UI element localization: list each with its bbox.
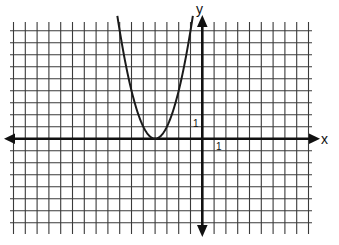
x-unit-label: 1 bbox=[216, 141, 222, 152]
grid-lines bbox=[10, 22, 312, 234]
x-axis-right-arrow-icon bbox=[309, 134, 320, 144]
y-unit-label: 1 bbox=[193, 118, 199, 129]
x-axis-label: x bbox=[321, 131, 328, 147]
x-axis-left-arrow-icon bbox=[4, 134, 15, 144]
y-axis-label: y bbox=[196, 1, 203, 17]
y-axis-down-arrow-icon bbox=[197, 225, 208, 237]
coordinate-plane: y x 1 1 bbox=[0, 0, 339, 245]
